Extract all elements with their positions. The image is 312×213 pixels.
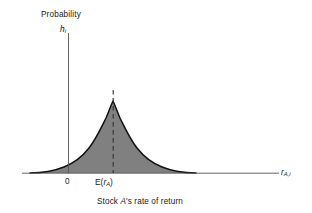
distribution-plot [0, 0, 312, 213]
x-axis-symbol-subscript: A,i [284, 171, 291, 177]
y-axis-symbol-subscript: i [65, 28, 66, 34]
expected-return-close: ) [110, 177, 113, 187]
expected-return-label: E(rA) [95, 178, 113, 188]
y-axis-symbol: hi [60, 25, 66, 35]
probability-distribution-figure: Probability hi rA,i 0 E(rA) Stock A's ra… [0, 0, 312, 213]
caption-suffix: 's rate of return [126, 197, 183, 206]
caption-prefix: Stock [97, 197, 120, 206]
x-axis-tick-zero: 0 [65, 178, 70, 186]
y-axis-title: Probability [41, 11, 81, 19]
figure-caption: Stock A's rate of return [97, 198, 183, 206]
x-axis-symbol: rA,i [281, 168, 291, 178]
